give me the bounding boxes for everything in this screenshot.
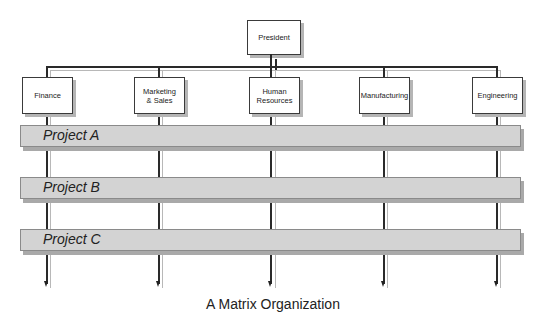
project-bar-a: Project A [20, 125, 521, 147]
top-horizontal-line [46, 66, 497, 68]
manufacturing-arrow-icon [381, 281, 385, 287]
project-label: Project C [43, 231, 101, 247]
diagram-caption: A Matrix Organization [0, 296, 546, 312]
project-label: Project A [43, 127, 99, 143]
department-label: Marketing & Sales [140, 87, 180, 105]
finance-arrow-icon [44, 281, 48, 287]
project-bar-b: Project B [20, 177, 521, 199]
department-box-marketing-sales: Marketing & Sales [134, 77, 185, 114]
project-label: Project B [43, 179, 100, 195]
department-label: Manufacturing [361, 91, 409, 100]
project-bar-c: Project C [20, 229, 521, 251]
department-box-engineering: Engineering [472, 77, 523, 114]
department-label: Engineering [477, 91, 517, 100]
president-connector-2 [275, 59, 277, 70]
department-box-finance: Finance [22, 77, 73, 114]
department-label: Finance [34, 91, 61, 100]
department-box-manufacturing: Manufacturing [359, 77, 410, 114]
marketing-arrow-icon [156, 281, 160, 287]
department-label: Human Resources [255, 87, 295, 105]
president-label: President [258, 33, 290, 42]
department-box-human-resources: Human Resources [249, 77, 300, 114]
hr-arrow-icon [268, 281, 272, 287]
president-box: President [247, 20, 301, 55]
engineering-arrow-icon [494, 281, 498, 287]
